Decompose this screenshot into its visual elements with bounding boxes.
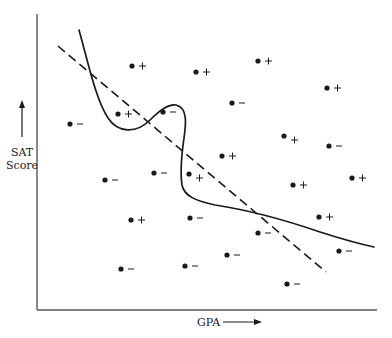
point-dot	[118, 266, 123, 271]
point-dot	[281, 133, 286, 138]
negative-point	[224, 252, 240, 257]
positive-point	[281, 133, 298, 143]
y-axis-label: SAT Score	[6, 146, 38, 172]
positive-point	[324, 85, 341, 92]
positive-point	[186, 171, 203, 181]
negative-point	[102, 177, 118, 182]
point-dot	[193, 69, 198, 74]
positive-point	[349, 175, 366, 182]
negative-point	[187, 215, 203, 220]
axis-arrows	[19, 100, 262, 325]
negative-point	[67, 121, 83, 126]
scatter-diagram	[0, 0, 392, 338]
positive-point	[290, 182, 307, 189]
y-axis-label-line2: Score	[6, 159, 38, 172]
point-dot	[229, 100, 234, 105]
point-dot	[324, 85, 329, 90]
point-dot	[128, 217, 133, 222]
decision-boundaries	[58, 30, 374, 272]
positive-point	[316, 214, 333, 221]
positive-point	[219, 153, 236, 160]
axes	[37, 14, 377, 310]
negative-point	[182, 263, 198, 268]
point-dot	[255, 230, 260, 235]
negative-point	[336, 248, 352, 253]
point-dot	[336, 248, 341, 253]
linear-decision-boundary	[58, 46, 326, 272]
negative-point	[118, 266, 134, 271]
point-dot	[186, 171, 191, 176]
negative-point	[229, 100, 245, 105]
point-dot	[129, 63, 134, 68]
positive-point	[128, 217, 145, 224]
point-dot	[67, 121, 72, 126]
point-dot	[290, 182, 295, 187]
positive-point	[115, 111, 132, 118]
point-dot	[349, 175, 354, 180]
right-arrow-head-icon	[254, 319, 262, 325]
point-dot	[102, 177, 107, 182]
point-dot	[255, 58, 260, 63]
negative-point	[255, 230, 271, 235]
positive-point	[255, 58, 272, 65]
point-dot	[182, 263, 187, 268]
point-dot	[326, 143, 331, 148]
negative-point	[284, 281, 300, 286]
point-dot	[160, 109, 165, 114]
positive-point	[193, 69, 210, 76]
point-dot	[224, 252, 229, 257]
negative-point	[151, 170, 167, 175]
up-arrow-head-icon	[19, 100, 25, 108]
point-dot	[151, 170, 156, 175]
point-dot	[219, 153, 224, 158]
point-dot	[316, 214, 321, 219]
negative-point	[326, 143, 342, 148]
positive-point	[129, 63, 146, 70]
point-dot	[115, 111, 120, 116]
negative-point	[160, 109, 176, 114]
point-dot	[284, 281, 289, 286]
x-axis-label: GPA	[197, 316, 220, 329]
point-dot	[187, 215, 192, 220]
y-axis-label-line1: SAT	[6, 146, 38, 159]
